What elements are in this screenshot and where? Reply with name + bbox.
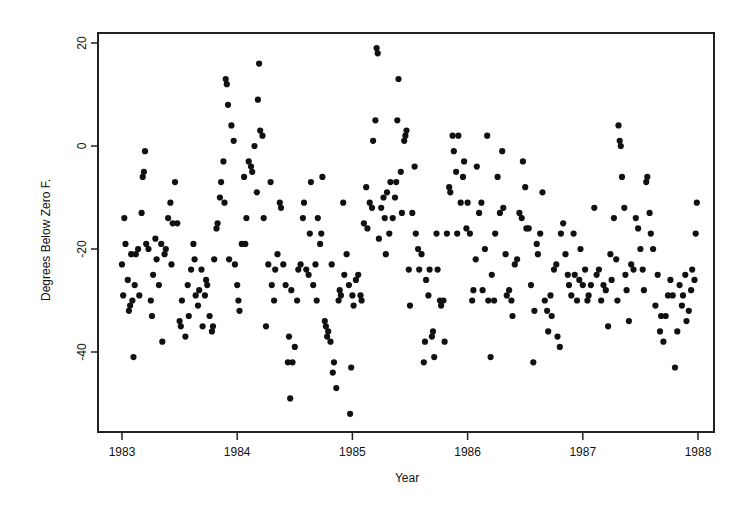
- data-point: [261, 215, 267, 221]
- data-point: [657, 328, 663, 334]
- data-point: [571, 231, 577, 237]
- data-point: [235, 297, 241, 303]
- data-point: [433, 231, 439, 237]
- data-point: [364, 225, 370, 231]
- data-point: [544, 308, 550, 314]
- data-point: [488, 354, 494, 360]
- data-point: [278, 205, 284, 211]
- data-point: [325, 328, 331, 334]
- data-point: [691, 277, 697, 283]
- data-point: [619, 174, 625, 180]
- data-point: [647, 210, 653, 216]
- data-point: [549, 313, 555, 319]
- data-point: [355, 272, 361, 278]
- data-point: [152, 236, 158, 242]
- data-point: [378, 205, 384, 211]
- data-point: [526, 225, 532, 231]
- data-point: [580, 282, 586, 288]
- data-point: [674, 328, 680, 334]
- data-point: [186, 313, 192, 319]
- data-point: [265, 261, 271, 267]
- data-point: [384, 189, 390, 195]
- data-point: [200, 323, 206, 329]
- data-point: [255, 97, 261, 103]
- data-point: [499, 148, 505, 154]
- data-point: [268, 179, 274, 185]
- data-point: [249, 169, 255, 175]
- data-point: [688, 287, 694, 293]
- data-point: [576, 277, 582, 283]
- data-point: [393, 179, 399, 185]
- data-point: [363, 184, 369, 190]
- data-point: [178, 323, 184, 329]
- data-point: [403, 128, 409, 134]
- data-point: [423, 277, 429, 283]
- data-point: [670, 292, 676, 298]
- data-point: [528, 282, 534, 288]
- data-point: [308, 179, 314, 185]
- data-point: [613, 256, 619, 262]
- data-point: [159, 339, 165, 345]
- data-point: [224, 81, 230, 87]
- data-point: [568, 292, 574, 298]
- data-point: [174, 220, 180, 226]
- data-point: [622, 272, 628, 278]
- data-point: [193, 292, 199, 298]
- data-point: [603, 287, 609, 293]
- data-point: [451, 148, 457, 154]
- data-point: [605, 323, 611, 329]
- data-point: [288, 287, 294, 293]
- data-point: [402, 133, 408, 139]
- data-point: [341, 272, 347, 278]
- y-tick-label: 20: [75, 36, 89, 50]
- data-point: [648, 231, 654, 237]
- data-point: [614, 297, 620, 303]
- data-point: [660, 339, 666, 345]
- data-point: [337, 287, 343, 293]
- data-point: [314, 297, 320, 303]
- data-point: [195, 303, 201, 309]
- data-point: [430, 328, 436, 334]
- data-point: [330, 370, 336, 376]
- data-point: [217, 194, 223, 200]
- data-point: [179, 297, 185, 303]
- data-point: [491, 297, 497, 303]
- data-point: [207, 313, 213, 319]
- data-point: [418, 251, 424, 257]
- data-point: [640, 267, 646, 273]
- data-point: [129, 297, 135, 303]
- data-point: [455, 133, 461, 139]
- data-point: [458, 200, 464, 206]
- data-point: [461, 158, 467, 164]
- data-point: [263, 323, 269, 329]
- data-point: [473, 256, 479, 262]
- data-point: [312, 261, 318, 267]
- data-point: [142, 148, 148, 154]
- data-point: [407, 303, 413, 309]
- data-point: [693, 231, 699, 237]
- data-point: [560, 220, 566, 226]
- x-tick-label: 1983: [109, 445, 136, 459]
- data-point: [394, 117, 400, 123]
- data-point: [465, 200, 471, 206]
- data-point: [409, 210, 415, 216]
- data-point: [635, 225, 641, 231]
- data-point: [680, 292, 686, 298]
- data-point: [376, 236, 382, 242]
- data-point: [427, 267, 433, 273]
- data-point: [476, 210, 482, 216]
- data-point: [406, 267, 412, 273]
- data-point: [375, 50, 381, 56]
- data-point: [442, 339, 448, 345]
- data-point: [333, 385, 339, 391]
- data-point: [338, 292, 344, 298]
- data-point: [163, 246, 169, 252]
- data-point: [154, 256, 160, 262]
- data-point: [156, 282, 162, 288]
- data-point: [412, 164, 418, 170]
- data-point: [677, 282, 683, 288]
- data-point: [369, 205, 375, 211]
- data-point: [209, 328, 215, 334]
- data-point: [435, 267, 441, 273]
- data-point: [121, 215, 127, 221]
